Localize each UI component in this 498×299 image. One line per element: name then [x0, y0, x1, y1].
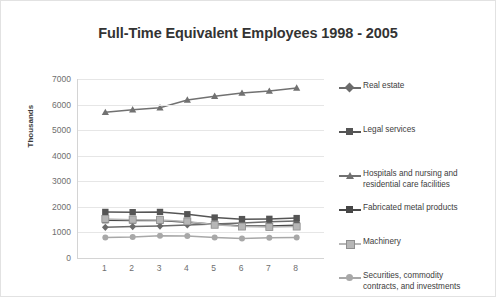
- x-tick-label: 8: [286, 263, 306, 273]
- y-tick-label: 6000: [37, 100, 71, 110]
- x-tick-label: 1: [94, 263, 114, 273]
- legend-marker-square-icon: [339, 126, 361, 137]
- legend-marker-diamond-icon: [339, 82, 361, 93]
- x-tick-label: 3: [149, 263, 169, 273]
- legend-label: Legal services: [363, 125, 415, 136]
- gridline: [78, 130, 324, 131]
- gridline: [78, 156, 324, 157]
- gridline: [78, 232, 324, 233]
- legend-entry[interactable]: Legal services: [339, 125, 415, 137]
- y-axis-title: Thousands: [26, 134, 35, 148]
- x-tick-label: 5: [204, 263, 224, 273]
- legend-marker-square-light-icon: [339, 238, 361, 249]
- legend-entry[interactable]: Machinery: [339, 237, 401, 249]
- gridline: [78, 207, 324, 208]
- y-tick-label: 2000: [37, 202, 71, 212]
- legend-label: Fabricated metal products: [363, 203, 458, 214]
- gridline: [78, 105, 324, 106]
- x-tick-label: 7: [258, 263, 278, 273]
- legend-marker-triangle-icon: [339, 170, 361, 181]
- gridline: [78, 79, 324, 80]
- legend-entry[interactable]: Securities, commodity contracts, and inv…: [339, 271, 460, 292]
- gridline: [78, 181, 324, 182]
- y-axis-tick-labels: 70006000500040003000200010000: [37, 1, 71, 299]
- legend-entry[interactable]: Real estate: [339, 81, 404, 93]
- y-tick-label: 0: [37, 253, 71, 263]
- legend-marker-circle-icon: [339, 272, 361, 283]
- legend-marker-square-icon: [339, 204, 361, 215]
- plot-wrapper: Thousands 70006000500040003000200010000 …: [1, 1, 495, 296]
- y-tick-label: 1000: [37, 227, 71, 237]
- plot-area: [77, 79, 324, 259]
- y-tick-label: 3000: [37, 176, 71, 186]
- x-tick-label: 6: [231, 263, 251, 273]
- series-5: [102, 233, 299, 242]
- y-tick-label: 5000: [37, 125, 71, 135]
- chart-container: Full-Time Equivalent Employees 1998 - 20…: [0, 0, 496, 297]
- y-tick-label: 7000: [37, 74, 71, 84]
- y-tick-label: 4000: [37, 151, 71, 161]
- legend-entry[interactable]: Fabricated metal products: [339, 203, 458, 215]
- series-layer: [78, 79, 324, 258]
- legend-label: Hospitals and nursing and residential ca…: [363, 169, 458, 190]
- x-tick-label: 2: [122, 263, 142, 273]
- legend-entry[interactable]: Hospitals and nursing and residential ca…: [339, 169, 458, 190]
- series-2: [102, 84, 301, 115]
- legend-label: Real estate: [363, 81, 404, 92]
- legend-label: Securities, commodity contracts, and inv…: [363, 271, 460, 292]
- legend-label: Machinery: [363, 237, 401, 248]
- x-tick-label: 4: [176, 263, 196, 273]
